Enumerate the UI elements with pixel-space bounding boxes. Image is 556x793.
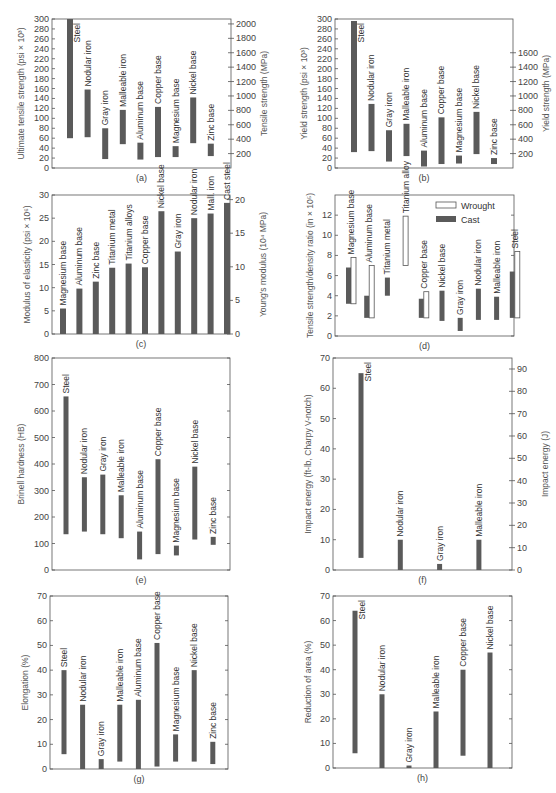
y-tick-label: 240 xyxy=(34,44,49,54)
y2-tick-label: 70 xyxy=(517,409,527,419)
legend-label-wrought: Wrought xyxy=(461,201,495,211)
y-tick-label: 70 xyxy=(37,591,47,601)
bar-gray-iron xyxy=(386,130,392,161)
category-label: Nodular iron xyxy=(78,655,88,702)
y-tick-label: 300 xyxy=(317,14,332,24)
y-tick-label: 50 xyxy=(320,414,330,424)
bar-wrought-aluminum-base xyxy=(369,266,374,318)
bar-magnesium-base xyxy=(174,546,179,556)
panel-caption: (a) xyxy=(136,173,147,183)
category-label: Aluminum base xyxy=(133,638,143,697)
category-label: Aluminum base xyxy=(419,89,429,148)
y-axis-label: Brinell hardness (HB) xyxy=(16,423,26,504)
y-tick-label: 60 xyxy=(37,616,47,626)
y-tick-label: 0 xyxy=(327,163,332,173)
category-label: Gray iron xyxy=(404,727,414,762)
category-label: Zinc base xyxy=(489,118,499,155)
bar-zinc-base xyxy=(211,537,216,545)
y-tick-label: 6 xyxy=(327,271,332,281)
y-tick-label: 40 xyxy=(39,143,49,153)
category-label: Nodular iron xyxy=(395,490,405,537)
y-tick-label: 15 xyxy=(39,260,49,270)
y-tick-label: 20 xyxy=(39,236,49,246)
category-label: Malleable iron xyxy=(118,54,128,107)
category-label: Aluminum base xyxy=(135,470,145,529)
bar-titanium-metal xyxy=(109,268,115,334)
y-tick-label: 25 xyxy=(39,213,49,223)
category-label: Nodular iron xyxy=(367,54,377,101)
panel-caption: (d) xyxy=(419,341,430,351)
y-tick-label: 140 xyxy=(317,93,332,103)
category-label: Nickel base xyxy=(189,623,199,667)
bar-wrought-titanium-alloy xyxy=(403,216,408,265)
bar-cast-titanium-metal xyxy=(385,278,390,296)
y-axis-label: Tensile strength/density ratio (in × 10⁵… xyxy=(305,193,315,338)
bar-aluminum-base xyxy=(421,151,427,167)
category-label: Nickel base xyxy=(156,164,166,208)
y-tick-label: 280 xyxy=(317,24,332,34)
y2-axis-label: Tensile strength (MPa) xyxy=(259,51,269,136)
category-label: Malleable iron xyxy=(492,241,502,294)
bar-nickel-base xyxy=(158,211,164,334)
bar-zinc-base xyxy=(210,742,215,764)
y2-axis-label: Young's modulus (10⁴ MPa) xyxy=(258,212,268,317)
panel-d: 024681012Tensile strength/density ratio … xyxy=(305,160,520,351)
category-label: Gray iron xyxy=(384,92,394,127)
bar-nodular-iron xyxy=(80,705,85,769)
y-tick-label: 4 xyxy=(327,291,332,301)
y-tick-label: 40 xyxy=(322,143,332,153)
y-tick-label: 30 xyxy=(37,690,47,700)
y-tick-label: 800 xyxy=(34,353,49,363)
bar-cast-copper-base xyxy=(419,299,424,318)
category-label: Malleable iron xyxy=(116,439,126,492)
category-label: Magnesium base xyxy=(454,88,464,153)
y2-axis-label: Impact energy (J) xyxy=(540,431,550,497)
y2-tick-label: 1200 xyxy=(518,77,538,87)
y2-tick-label: 1400 xyxy=(518,62,538,72)
category-label: Malleable iron xyxy=(474,484,484,537)
category-label: Nodular iron xyxy=(377,645,387,692)
bar-wrought-magnesium-base xyxy=(351,257,356,303)
category-label: Nickel base xyxy=(437,243,447,287)
bar-copper-base xyxy=(142,267,148,334)
y-tick-label: 0 xyxy=(44,565,49,575)
bar-aluminum-base xyxy=(136,700,141,769)
bar-gray-iron xyxy=(100,475,105,535)
figure-canvas: 0204060801001201401601802002202402602803… xyxy=(0,0,556,793)
bar-copper-base xyxy=(155,643,160,767)
category-label: Aluminum base xyxy=(135,81,145,140)
category-label: Aluminum base xyxy=(364,204,374,263)
category-label: Steel xyxy=(363,362,373,381)
category-label: Magnesium base xyxy=(171,78,181,143)
category-label: Copper base xyxy=(153,407,163,456)
y-tick-label: 180 xyxy=(34,74,49,84)
y-tick-label: 10 xyxy=(39,283,49,293)
bar-magnesium-base xyxy=(60,309,66,334)
bar-nodular-iron xyxy=(191,218,197,334)
category-label: Steel xyxy=(356,23,366,42)
y2-tick-label: 400 xyxy=(236,134,251,144)
category-label: Titanium metal xyxy=(107,209,117,265)
y2-tick-label: 200 xyxy=(236,149,251,159)
y-axis-label: Ultimate tensile strength (psi × 10³) xyxy=(16,27,26,159)
y2-tick-label: 10 xyxy=(235,262,245,272)
y2-tick-label: 90 xyxy=(517,364,527,374)
y-axis-label: Impact energy (ft-lb, Charpy V-notch) xyxy=(303,394,313,534)
y2-tick-label: 1200 xyxy=(236,77,256,87)
panel-caption: (c) xyxy=(136,339,147,349)
legend-label-cast: Cast xyxy=(461,215,480,225)
y-tick-label: 260 xyxy=(317,34,332,44)
y-tick-label: 220 xyxy=(317,54,332,64)
panel-g: 010203040506070Elongation (%)(g)SteelNod… xyxy=(20,591,228,784)
y-tick-label: 0 xyxy=(327,331,332,341)
category-label: Steel xyxy=(59,648,69,667)
y2-tick-label: 600 xyxy=(236,120,251,130)
y-tick-label: 20 xyxy=(322,153,332,163)
panel-f: 0102030405060700102030405060708090Impact… xyxy=(303,353,550,585)
y-tick-label: 70 xyxy=(320,353,330,363)
y-tick-label: 500 xyxy=(34,433,49,443)
y-tick-label: 2 xyxy=(327,311,332,321)
bar-gray-iron xyxy=(102,128,108,159)
y2-tick-label: 2000 xyxy=(236,19,256,29)
y-tick-label: 0 xyxy=(325,565,330,575)
